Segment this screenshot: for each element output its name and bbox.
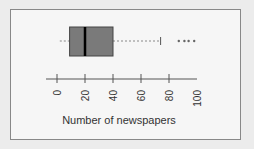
outlier-point (183, 40, 185, 42)
x-tick-label: 80 (164, 90, 175, 102)
boxplot-chart: 020406080100Number of newspapers (0, 0, 254, 149)
x-tick-label: 20 (80, 90, 91, 102)
outlier-point (193, 40, 195, 42)
x-axis-label: Number of newspapers (62, 114, 176, 126)
x-tick-label: 40 (108, 90, 119, 102)
iqr-box (70, 27, 113, 56)
outlier-point (187, 40, 189, 42)
x-tick-label: 60 (136, 90, 147, 102)
x-tick-label: 100 (192, 90, 203, 107)
x-tick-label: 0 (52, 90, 63, 96)
outlier-point (178, 40, 180, 42)
